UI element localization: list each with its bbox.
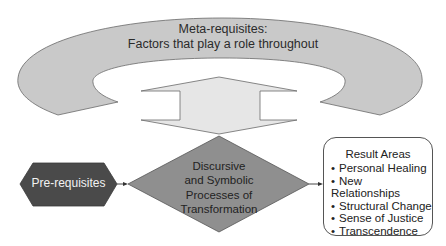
process-label: Discursive and Symbolic Processes of Tra… [160, 159, 278, 217]
double-arrow [141, 77, 297, 134]
process-label-line: and Symbolic [160, 173, 278, 187]
list-item: Transcendence [331, 225, 432, 238]
list-item: Structural Change [331, 200, 432, 213]
list-item: Personal Healing [331, 162, 432, 175]
result-areas-list: Personal Healing New Relationships Struc… [331, 162, 432, 238]
meta-requisites-subtitle: Factors that play a role throughout [80, 37, 366, 52]
process-label-line: Transformation [160, 202, 278, 216]
result-areas-box: Result Areas Personal Healing New Relati… [323, 137, 433, 236]
pre-requisites-label: Pre-requisites [20, 176, 117, 190]
list-item: New Relationships [331, 175, 432, 200]
process-label-line: Discursive [160, 159, 278, 173]
result-areas-title: Result Areas [324, 148, 432, 160]
meta-requisites-title: Meta-requisites: [80, 22, 366, 37]
list-item: Sense of Justice [331, 212, 432, 225]
meta-requisites-label: Meta-requisites: Factors that play a rol… [80, 22, 366, 52]
process-label-line: Processes of [160, 188, 278, 202]
